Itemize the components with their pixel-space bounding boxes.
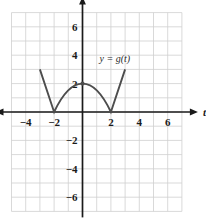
y-tick-label: 6 [72,21,78,33]
x-tick-label: −2 [48,116,60,128]
x-tick-label: 4 [137,116,143,128]
axes [0,0,198,217]
x-tick-label: −4 [20,116,32,128]
graph-figure: −4−2246642−2−4−6 y = g(t) yt [0,0,206,222]
y-tick-label: −2 [66,134,78,146]
x-axis-label: t [203,106,206,118]
coordinate-plane: −4−2246642−2−4−6 y = g(t) yt [0,0,206,222]
curve-vertex-marker [80,82,84,86]
y-tick-label: 4 [72,49,78,61]
curve-annotation: y = g(t) [99,53,131,65]
curve-equation-label: y = g(t) [99,53,131,65]
y-tick-label: −6 [66,191,78,203]
x-tick-label: 2 [108,116,114,128]
x-tick-label: 6 [165,116,171,128]
y-tick-label: −4 [66,163,78,175]
curve-point-markers [80,82,84,86]
